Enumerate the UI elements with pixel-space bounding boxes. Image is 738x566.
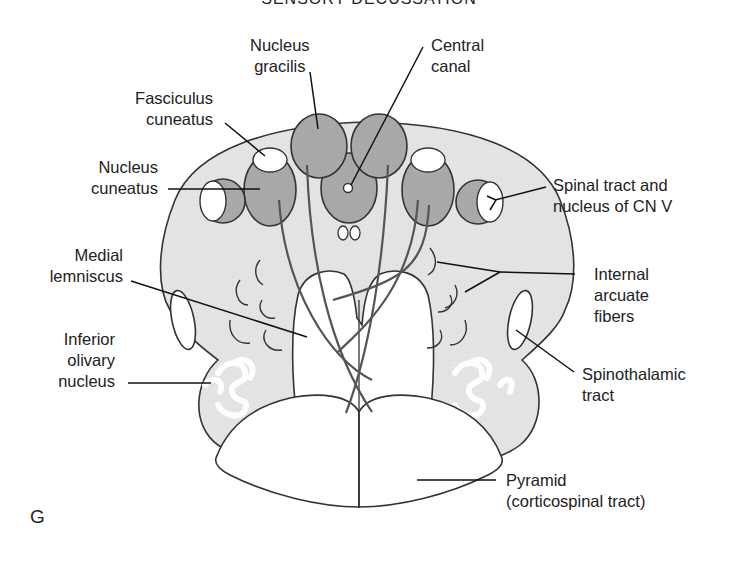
label-inferior-olivary-nucleus: Inferior olivary nucleus — [30, 329, 115, 392]
right-fasciculus-cuneatus — [411, 148, 445, 172]
panel-letter: G — [30, 506, 45, 528]
label-nucleus-gracilis: Nucleus gracilis — [250, 35, 310, 77]
left-nucleus-gracilis — [291, 114, 347, 178]
label-internal-arcuate-fibers: Internal arcuate fibers — [594, 264, 649, 327]
label-fasciculus-cuneatus: Fasciculus cuneatus — [110, 88, 213, 130]
label-spinal-tract-cn-v: Spinal tract and nucleus of CN V — [553, 175, 672, 217]
label-central-canal: Central canal — [431, 35, 484, 77]
left-spinal-tract-cn-v — [200, 181, 226, 221]
label-nucleus-cuneatus: Nucleus cuneatus — [60, 157, 158, 199]
left-fasciculus-cuneatus — [253, 148, 287, 172]
twin-oval-right — [350, 226, 360, 240]
label-medial-lemniscus: Medial lemniscus — [20, 245, 123, 287]
twin-oval-left — [338, 226, 348, 240]
label-pyramid: Pyramid (corticospinal tract) — [506, 470, 645, 512]
right-spinal-tract-cn-v — [477, 182, 503, 222]
label-spinothalamic-tract: Spinothalamic tract — [582, 364, 686, 406]
